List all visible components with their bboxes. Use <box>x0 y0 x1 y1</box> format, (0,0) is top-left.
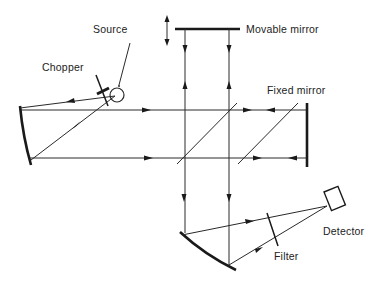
source-pointer <box>119 43 130 85</box>
horizontal-beams <box>20 108 307 161</box>
source-beams <box>20 96 115 160</box>
chopper-icon <box>96 75 109 106</box>
movable-mirror-label: Movable mirror <box>246 23 319 35</box>
chopper-label: Chopper <box>42 61 84 73</box>
fixed-mirror-label: Fixed mirror <box>267 84 325 96</box>
detector-icon <box>324 186 345 210</box>
source-label: Source <box>93 23 127 35</box>
source-icon <box>110 88 124 102</box>
beamsplitters <box>177 103 298 164</box>
bottom-curved-mirror <box>180 232 236 270</box>
interferometer-diagram <box>0 0 386 289</box>
left-curved-mirror <box>20 106 31 165</box>
detector-beams <box>182 206 327 265</box>
detector-label: Detector <box>323 225 364 237</box>
filter-label: Filter <box>274 250 299 262</box>
